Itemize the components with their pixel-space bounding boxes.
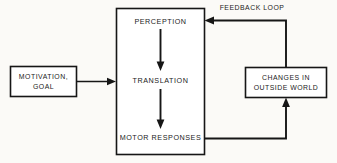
outside-world-box-outline (246, 68, 327, 98)
motivation-goal-box: MOTIVATION, GOAL (11, 67, 77, 97)
feedback-loop-label: FEEDBACK LOOP (220, 4, 285, 11)
process-box: PERCEPTION TRANSLATION MOTOR RESPONSES (117, 9, 205, 155)
motivation-goal-box-outline (11, 67, 77, 97)
feedback-loop-shaft (212, 21, 286, 68)
arrow-motivation-to-process (77, 78, 116, 85)
diagram-canvas: MOTIVATION, GOAL PERCEPTION TRANSLATION (0, 0, 337, 163)
arrow-motor-responses-to-outside-world (205, 98, 290, 139)
outside-world-label-line2: OUTSIDE WORLD (254, 84, 319, 91)
outside-world-label-line1: CHANGES IN (262, 74, 310, 81)
feedback-loop-arrow-head (205, 17, 215, 25)
stage-translation-label: TRANSLATION (133, 76, 189, 85)
feedback-loop-path: FEEDBACK LOOP (205, 4, 287, 68)
stage-perception-label: PERCEPTION (134, 17, 186, 26)
outside-world-box: CHANGES IN OUTSIDE WORLD (246, 68, 327, 98)
motivation-goal-label-line1: MOTIVATION, (19, 73, 68, 80)
motivation-goal-label-line2: GOAL (33, 83, 54, 90)
arrow-motor-responses-to-outside-world-shaft (205, 105, 287, 139)
arrow-motor-responses-to-outside-world-head (282, 98, 290, 108)
stage-motor-responses-label: MOTOR RESPONSES (120, 133, 202, 142)
arrow-motivation-to-process-head (107, 78, 116, 85)
flow-diagram: MOTIVATION, GOAL PERCEPTION TRANSLATION (0, 0, 337, 163)
